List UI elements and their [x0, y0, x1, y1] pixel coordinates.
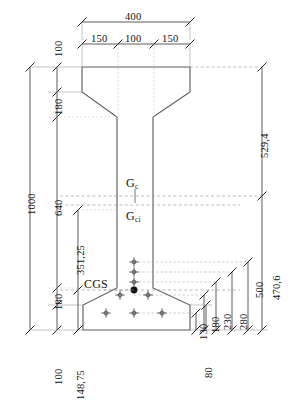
label-gci-text: G: [126, 209, 135, 223]
dim-label-bottom-haunch-180: 180: [53, 294, 64, 310]
axis-gc: [60, 189, 262, 203]
dim-label-top-haunch-180: 180: [53, 99, 64, 115]
label-gci: Gci: [126, 209, 141, 224]
dim-label-470-6: 470,6: [271, 275, 282, 300]
dim-left-chain: [30, 63, 117, 335]
dim-label-130: 130: [198, 324, 209, 340]
section-drawing-svg: [0, 0, 304, 406]
dim-label-web-640: 640: [53, 200, 64, 216]
dim-label-bottom-flange-100: 100: [53, 369, 64, 385]
dim-label-100-mid: 100: [125, 33, 141, 44]
dim-label-351-25: 351,25: [75, 245, 86, 275]
dim-label-500: 500: [254, 282, 265, 298]
dim-label-529-4: 529,4: [259, 133, 270, 158]
label-gc: Gc: [126, 176, 138, 191]
drawing-canvas: 400 150 100 150 1000 100 180 640 180 100…: [0, 0, 304, 406]
dim-label-1000: 1000: [26, 193, 37, 215]
dim-label-148-75: 148,75: [75, 370, 86, 400]
label-gci-subscript: ci: [135, 215, 141, 224]
dim-label-230: 230: [222, 314, 233, 330]
dim-label-top-flange-100: 100: [53, 41, 64, 57]
dim-label-80: 80: [203, 367, 214, 378]
dim-label-150-right: 150: [162, 33, 178, 44]
label-gc-subscript: c: [135, 182, 139, 191]
strand-leaders: [134, 262, 248, 313]
label-cgs: CGS: [84, 277, 108, 292]
label-gc-text: G: [126, 176, 135, 190]
dim-label-400: 400: [125, 11, 141, 22]
dim-label-180-strand: 180: [210, 317, 221, 333]
dim-148: [74, 290, 83, 335]
dim-label-280: 280: [238, 314, 249, 330]
dim-top-chain: [78, 40, 195, 118]
dim-label-150-left: 150: [91, 33, 107, 44]
dim-529: [258, 63, 267, 201]
